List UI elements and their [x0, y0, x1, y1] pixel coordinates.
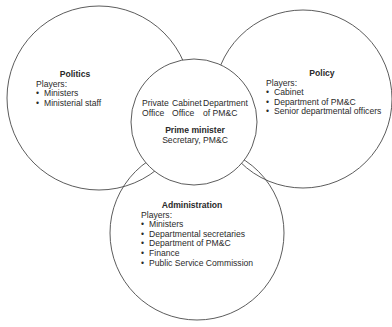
politics-block: Politics Players: Ministers Ministerial …: [36, 70, 114, 108]
venn-circles: [0, 0, 392, 327]
department-pmc-label: Department of PM&C: [203, 98, 248, 118]
politics-players-list: Ministers Ministerial staff: [36, 89, 114, 108]
policy-block: Policy Players: Cabinet Department of PM…: [266, 69, 381, 117]
private-office-label: Private Office: [142, 98, 169, 118]
secretary-pmc-label: Secretary, PM&C: [134, 136, 256, 146]
cabinet-office-label: Cabinet Office: [172, 98, 202, 118]
administration-block: Administration Players: Ministers Depart…: [141, 201, 253, 268]
list-item: Public Service Commission: [141, 259, 253, 269]
prime-minister-circle: [131, 59, 257, 185]
policy-players-list: Cabinet Department of PM&C Senior depart…: [266, 88, 381, 117]
list-item: Ministerial staff: [36, 99, 114, 109]
administration-players-list: Ministers Departmental secretaries Depar…: [141, 220, 253, 268]
prime-minister-block: Prime minister Secretary, PM&C: [134, 126, 256, 145]
list-item: Senior departmental officers: [266, 107, 381, 117]
